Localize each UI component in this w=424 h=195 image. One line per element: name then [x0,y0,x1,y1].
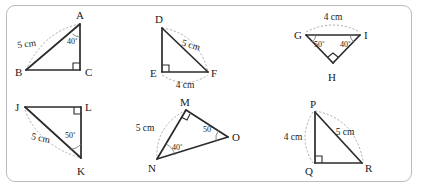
measure-arc-gi [306,25,360,32]
measure-label-pr: 5 cm [336,127,355,137]
measure-label-jk: 5 cm [30,131,51,145]
angle-label-g: 50˚ [314,40,325,49]
angle-label-a: 40˚ [67,37,78,46]
measure-label-df: 5 cm [180,38,201,53]
right-angle-marker-e [162,65,169,72]
vertex-label-f: F [211,67,217,79]
figure-triangle-abc: A B C 5 cm 40˚ [15,9,92,78]
angle-label-k: 50˚ [65,131,76,140]
vertex-label-o: O [232,131,240,143]
vertex-label-q: Q [305,165,313,177]
vertex-label-r: R [365,162,373,174]
angle-label-i: 40˚ [340,40,351,49]
vertex-label-h: H [328,71,336,83]
measure-label-mn: 5 cm [136,123,155,133]
vertex-label-k: K [77,165,85,177]
vertex-label-p: P [310,98,316,110]
vertex-label-j: J [15,101,20,113]
vertex-label-c: C [85,66,92,78]
vertex-label-a: A [76,9,84,21]
figure-triangle-pqr: P Q R 4 cm 5 cm [284,98,373,177]
vertex-label-l: L [85,101,92,113]
measure-label-ef: 4 cm [176,80,195,90]
measure-label-pq: 4 cm [284,132,303,142]
right-angle-marker-c [73,63,80,70]
measure-arc-pq [305,112,313,163]
right-angle-marker-q [315,156,322,163]
vertex-label-d: D [155,13,163,25]
figure-triangle-jkl: J L K 5 cm 50˚ [15,101,92,177]
angle-label-n: 40˚ [172,143,183,152]
angle-label-o: 50˚ [203,125,214,134]
measure-label-ab: 5 cm [17,38,38,51]
vertex-label-e: E [150,67,157,79]
geometry-figures: A B C 5 cm 40˚ D E F 5 cm 4 cm G I H 4 c… [0,0,424,195]
vertex-label-b: B [15,66,22,78]
vertex-label-n: N [148,162,156,174]
figure-triangle-ghi: G I H 4 cm 50˚ 40˚ [294,12,368,83]
measure-label-gi: 4 cm [324,12,343,22]
vertex-label-i: I [364,29,368,41]
figure-triangle-mno: M N O 5 cm 40˚ 50˚ [136,96,240,174]
right-angle-marker-l [74,107,81,114]
right-angle-marker-h [328,53,338,57]
vertex-label-g: G [294,29,302,41]
figure-triangle-def: D E F 5 cm 4 cm [150,13,217,90]
vertex-label-m: M [180,96,190,108]
